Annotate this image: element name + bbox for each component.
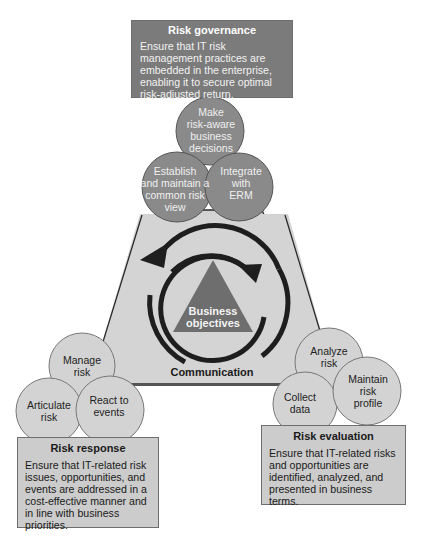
label-establish-view: Establish and maintain a common risk vie… xyxy=(141,165,210,213)
risk-governance-title: Risk governance xyxy=(140,24,284,36)
label-articulate-risk: Articulate risk xyxy=(27,399,71,423)
risk-evaluation-box: Risk evaluation Ensure that IT-related r… xyxy=(261,425,406,505)
business-objectives-label: Business objectives xyxy=(186,305,240,329)
risk-response-title: Risk response xyxy=(25,442,151,454)
risk-governance-body: Ensure that IT risk management practices… xyxy=(140,40,284,100)
label-make-decisions: Make risk-aware business decisions xyxy=(187,106,235,154)
risk-response-body: Ensure that IT-related risk issues, oppo… xyxy=(25,459,151,531)
label-react-events: React to events xyxy=(89,394,128,418)
risk-response-box: Risk response Ensure that IT-related ris… xyxy=(17,437,159,528)
communication-label: Communication xyxy=(170,366,253,378)
risk-evaluation-title: Risk evaluation xyxy=(269,430,398,442)
label-integrate-erm: Integrate with ERM xyxy=(220,165,261,201)
risk-governance-box: Risk governance Ensure that IT risk mana… xyxy=(131,20,293,98)
risk-evaluation-body: Ensure that IT-related risks and opportu… xyxy=(269,447,398,507)
label-manage-risk: Manage risk xyxy=(63,354,101,378)
label-analyze-risk: Analyze risk xyxy=(310,345,347,369)
label-collect-data: Collect data xyxy=(284,391,316,415)
label-maintain-profile: Maintain risk profile xyxy=(348,373,388,409)
